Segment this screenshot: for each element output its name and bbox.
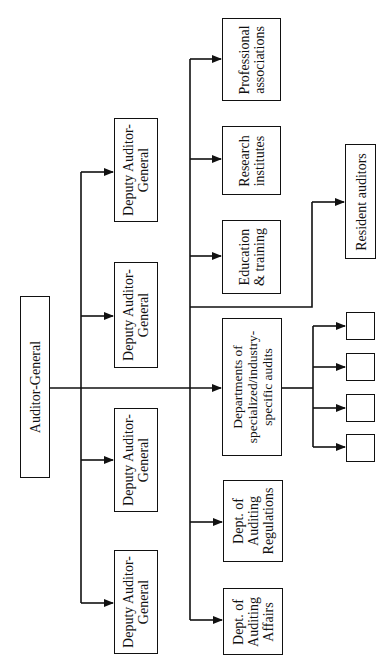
connector-lines [0,0,389,666]
specialized-audits-label: Departments of specialized/industry- spe… [230,331,275,443]
research-institutes-box: Research institutes [222,126,281,195]
deputy-auditor-general-box-4: Deputy Auditor- General [114,550,158,654]
deputy-label: Deputy Auditor- General [121,124,151,216]
resident-auditors-box: Resident auditors [345,144,376,259]
deputy-auditor-general-box-3: Deputy Auditor- General [114,408,158,512]
auditor-general-box: Auditor-General [20,296,50,478]
education-training-label: Education & training [237,228,267,286]
sub-unit-box-1 [346,312,375,340]
deputy-label: Deputy Auditor- General [121,269,151,361]
professional-associations-box: Professional associations [222,18,281,101]
auditing-regulations-label: Dept. of Auditing Regulations [231,488,276,555]
auditing-affairs-box: Dept. of Auditing Affairs [223,588,283,655]
professional-associations-label: Professional associations [237,25,267,94]
research-institutes-label: Research institutes [237,135,267,186]
deputy-label: Deputy Auditor- General [121,556,151,648]
auditing-affairs-label: Dept. of Auditing Affairs [231,597,276,647]
specialized-audits-box: Departments of specialized/industry- spe… [222,318,282,456]
auditing-regulations-box: Dept. of Auditing Regulations [223,480,283,562]
education-training-box: Education & training [222,220,281,294]
sub-unit-box-3 [346,394,375,422]
sub-unit-box-4 [346,434,375,462]
deputy-auditor-general-box-1: Deputy Auditor- General [114,118,158,222]
org-chart: Auditor-General Deputy Auditor- General … [0,0,389,666]
auditor-general-label: Auditor-General [28,341,43,433]
deputy-label: Deputy Auditor- General [121,414,151,506]
deputy-auditor-general-box-2: Deputy Auditor- General [114,262,158,368]
resident-auditors-label: Resident auditors [353,153,368,251]
sub-unit-box-2 [346,353,375,381]
